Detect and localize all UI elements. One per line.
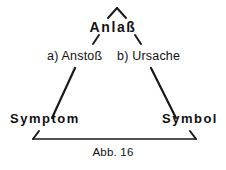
right-leg-stub [135,35,141,44]
figure-container: Anlaß a) Anstoß b) Ursache Symptom Symbo… [0,0,226,170]
node-label-symbol: Symbol [162,112,218,125]
node-label-ursache: b) Ursache [117,50,180,63]
figure-caption: Abb. 16 [0,147,226,159]
left-leg-stub [93,35,99,44]
node-label-anstoss: a) Anstoß [47,50,102,63]
node-label-anlass: Anlaß [0,20,226,34]
apex-left-stroke [108,8,117,18]
apex-right-stroke [117,8,126,18]
base-right-tip [190,131,196,139]
node-label-symptom: Symptom [10,112,80,125]
base-left-tip [33,131,39,139]
